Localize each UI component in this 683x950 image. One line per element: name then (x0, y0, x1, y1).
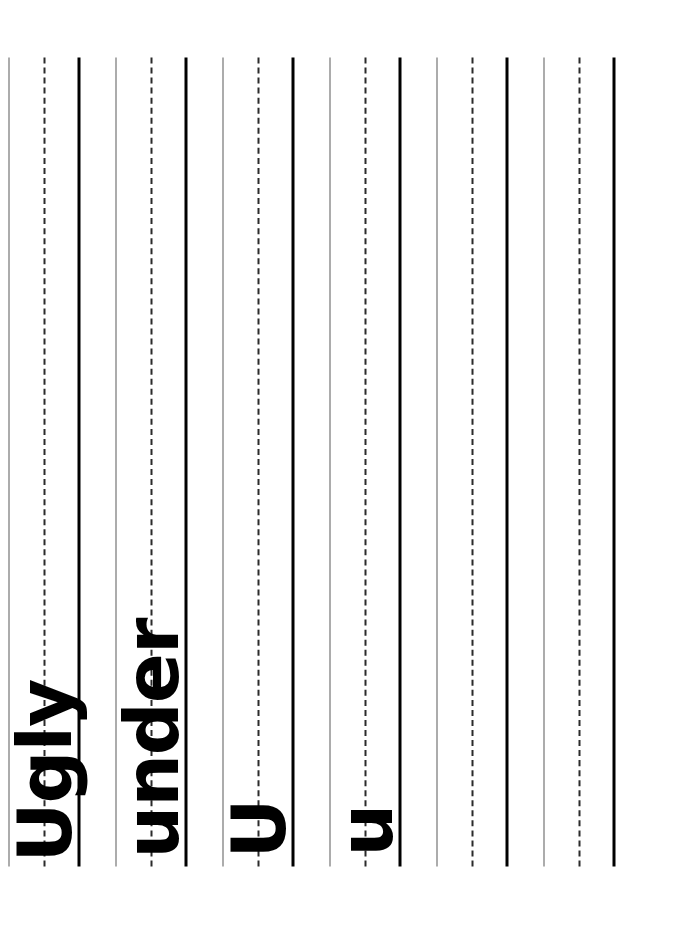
worksheet-page: Ugly under U u (0, 0, 683, 950)
ruled-line-group-4: u (329, 44, 400, 907)
ruled-line-group-3: U (222, 44, 293, 907)
handwriting-word-3: U (221, 799, 295, 858)
rule-baseline-3 (291, 58, 294, 867)
rule-dashed-line-5 (471, 58, 473, 867)
rule-baseline-5 (505, 58, 508, 867)
rule-baseline-4 (398, 58, 401, 867)
handwriting-word-1: Ugly (7, 680, 81, 863)
rule-top-line-4 (329, 58, 330, 867)
rule-dashed-line-6 (578, 58, 580, 867)
rule-top-line-6 (543, 58, 544, 867)
ruled-line-group-5 (436, 44, 507, 907)
rule-top-line-5 (436, 58, 437, 867)
rule-dashed-line-4 (364, 58, 366, 867)
ruled-line-group-6 (543, 44, 614, 907)
handwriting-word-2: under (114, 618, 188, 858)
ruled-line-group-2: under (115, 44, 186, 907)
rule-baseline-6 (612, 58, 615, 867)
rotated-worksheet-stage: Ugly under U u (0, 44, 683, 907)
rule-top-line-3 (222, 58, 223, 867)
ruled-line-group-1: Ugly (8, 44, 79, 907)
rule-dashed-line-3 (257, 58, 259, 867)
handwriting-word-4: u (328, 805, 402, 857)
